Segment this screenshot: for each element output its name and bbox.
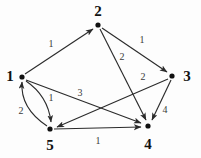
edge-weight-1-to-2: 1 xyxy=(48,39,55,49)
node-label-2: 2 xyxy=(94,4,102,19)
graph-figure: 1 2 3 4 5 1 1 2 2 4 3 1 1 2 xyxy=(0,0,201,158)
edge-weight-1-to-5: 1 xyxy=(48,93,55,103)
edge-weight-2-to-3: 1 xyxy=(139,35,146,45)
edge-3-to-5 xyxy=(57,79,168,127)
edge-weight-2-to-4: 2 xyxy=(119,52,126,62)
edge-weight-1-to-4: 3 xyxy=(77,88,84,98)
edge-1-to-2 xyxy=(25,29,93,74)
edge-2-to-3 xyxy=(102,28,167,72)
node-dot-1[interactable] xyxy=(19,74,24,79)
node-label-5: 5 xyxy=(46,138,54,153)
edge-5-to-1 xyxy=(22,82,47,126)
node-label-3: 3 xyxy=(183,69,191,84)
edge-5-to-4 xyxy=(54,127,141,129)
edge-weight-3-to-4: 4 xyxy=(162,105,169,115)
graph-edges-layer xyxy=(0,0,201,158)
node-dot-2[interactable] xyxy=(95,22,100,27)
edge-weight-3-to-5: 2 xyxy=(140,72,147,82)
node-dot-3[interactable] xyxy=(169,73,174,78)
node-label-4: 4 xyxy=(144,137,152,152)
node-dot-5[interactable] xyxy=(47,126,52,131)
node-label-1: 1 xyxy=(6,69,14,84)
edge-weight-5-to-4: 1 xyxy=(95,136,102,146)
edge-weight-5-to-1: 2 xyxy=(18,106,25,116)
node-dot-4[interactable] xyxy=(145,123,150,128)
edge-1-to-4 xyxy=(26,80,141,123)
